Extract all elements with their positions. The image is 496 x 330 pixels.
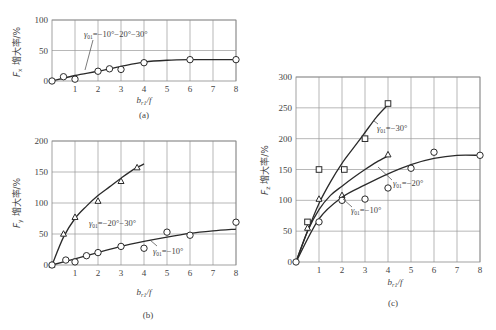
x-tick-label: 7 (211, 84, 216, 94)
x-tick-label: 6 (188, 268, 193, 278)
circle-marker (95, 249, 101, 255)
x-tick-label: 8 (234, 84, 239, 94)
x-tick-label: 4 (142, 84, 147, 94)
x-tick-label: 5 (409, 265, 414, 275)
circle-marker (118, 243, 124, 249)
circle-marker (385, 185, 391, 191)
x-tick-label: 3 (119, 268, 124, 278)
panel-c-caption: (c) (388, 298, 398, 308)
square-marker (362, 136, 368, 142)
x-tick-label: 7 (455, 265, 460, 275)
circle-marker (233, 219, 239, 225)
circle-marker (164, 229, 170, 235)
panel-b-ylabel: Fy 增大率/% (11, 177, 24, 228)
circle-marker (106, 66, 112, 72)
y-tick-label: 300 (279, 72, 293, 82)
circle-marker (83, 253, 89, 259)
circle-marker (63, 257, 69, 263)
panel-b-annotation-lower: γ01=−10° (153, 246, 183, 257)
y-tick-label: 50 (283, 226, 293, 236)
panel-c-xlabel: br1/f (388, 277, 404, 288)
circle-marker (187, 232, 193, 238)
panel-c-ylabel: Fz 增大率/% (259, 145, 271, 195)
x-tick-label: 4 (142, 268, 147, 278)
panel-b-caption: (b) (143, 310, 154, 320)
panel-a-caption: (a) (139, 110, 149, 120)
square-marker (385, 101, 391, 107)
y-tick-label: 200 (279, 134, 293, 144)
circle-marker (362, 196, 368, 202)
panel-a-xlabel: br1/f (137, 95, 153, 106)
y-tick-label: 0 (44, 260, 49, 270)
panel-c-annotation-20: γ01=−20° (393, 178, 423, 189)
y-tick-label: 0 (288, 257, 293, 267)
circle-marker (49, 262, 55, 268)
panel-a-ylabel: Fx 增大率/% (11, 26, 23, 77)
circle-marker (187, 56, 193, 62)
y-tick-label: 50 (39, 229, 49, 239)
x-tick-label: 6 (188, 84, 193, 94)
circle-marker (233, 56, 239, 62)
x-tick-label: 7 (211, 268, 216, 278)
triangle-marker (385, 151, 391, 157)
circle-marker (49, 78, 55, 84)
circle-marker (95, 68, 101, 74)
circle-marker (316, 219, 322, 225)
panel-c-chart: 12345678050100150200250300 (279, 72, 484, 275)
x-tick-label: 4 (386, 265, 391, 275)
x-tick-label: 5 (165, 268, 170, 278)
triangle-marker (118, 178, 124, 184)
x-tick-label: 1 (317, 265, 322, 275)
figure-canvas: 12345678050100 Fx 增大率/% br1/f (a) γ01=−1… (0, 0, 496, 330)
y-tick-label: 150 (35, 167, 49, 177)
y-tick-label: 100 (35, 198, 49, 208)
x-tick-label: 8 (234, 268, 239, 278)
y-tick-label: 100 (279, 195, 293, 205)
y-tick-label: 250 (279, 103, 293, 113)
panel-a-chart: 12345678050100 (35, 15, 240, 94)
x-tick-label: 1 (73, 84, 78, 94)
triangle-marker (95, 198, 101, 204)
panel-a-leader-line (85, 40, 93, 70)
circle-marker (141, 60, 147, 66)
y-tick-label: 150 (279, 165, 293, 175)
panel-b-xlabel: br1/f (137, 287, 153, 298)
x-tick-label: 2 (96, 84, 101, 94)
panel-a-annotation: γ01=−10°−20°−30° (84, 29, 148, 40)
square-marker (342, 167, 348, 173)
circle-marker (141, 245, 147, 251)
x-tick-label: 2 (96, 268, 101, 278)
y-tick-label: 200 (35, 136, 49, 146)
x-tick-label: 3 (119, 84, 124, 94)
x-tick-label: 1 (73, 268, 78, 278)
circle-marker (293, 259, 299, 265)
x-tick-label: 5 (165, 84, 170, 94)
x-tick-label: 6 (432, 265, 437, 275)
x-tick-label: 3 (363, 265, 368, 275)
y-tick-label: 100 (35, 15, 49, 25)
panel-c-annotation-30: γ01=−30° (377, 123, 407, 134)
circle-marker (118, 66, 124, 72)
panel-b-chart: 12345678050100150200 (35, 136, 240, 278)
panel-b-annotation-upper: γ01=−20°−30° (89, 218, 136, 229)
y-tick-label: 0 (44, 76, 49, 86)
circle-marker (408, 165, 414, 171)
square-marker (316, 167, 322, 173)
circle-marker (72, 259, 78, 265)
circle-marker (431, 149, 437, 155)
y-tick-label: 50 (39, 46, 49, 56)
circle-marker (60, 74, 66, 80)
panel-c-annotation-10: γ01=−10° (351, 205, 381, 216)
x-tick-label: 8 (478, 265, 483, 275)
x-tick-label: 2 (340, 265, 345, 275)
circle-marker (72, 76, 78, 82)
circle-marker (477, 152, 483, 158)
